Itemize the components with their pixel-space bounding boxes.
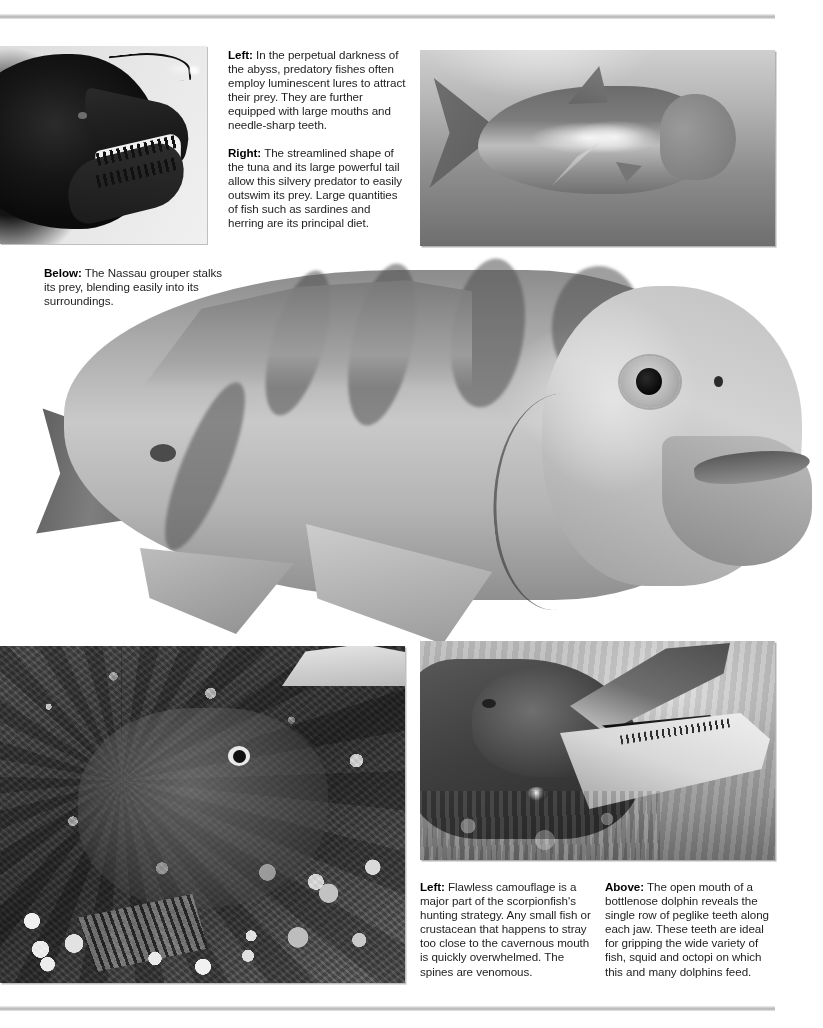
caption-lead-left: Left: — [228, 48, 253, 61]
dolphin-blowhole — [482, 699, 496, 708]
coral-cluster-bottom-left — [2, 894, 122, 983]
caption-paragraph-bottom-left: Left: Flawless camouflage is a major par… — [420, 880, 592, 979]
caption-paragraph-bottom-right: Above: The open mouth of a bottlenose do… — [605, 880, 777, 979]
grouper-dark-spot — [150, 444, 176, 462]
page-canvas: Left: In the perpetual darkness of the a… — [0, 0, 823, 1028]
anglerfish-lure-stalk — [109, 48, 192, 88]
top-divider-rule — [0, 14, 775, 19]
caption-body-left: In the perpetual darkness of the abyss, … — [228, 48, 405, 131]
caption-paragraph-left: Left: In the perpetual darkness of the a… — [228, 48, 406, 133]
photo-tuna — [420, 50, 775, 246]
dolphin-artwork — [420, 641, 775, 860]
grouper-eye — [636, 368, 662, 395]
anglerfish-eye — [78, 112, 87, 119]
anglerfish-artwork — [0, 46, 207, 244]
bottom-divider-rule — [0, 1006, 775, 1011]
caption-top-left: Left: In the perpetual darkness of the a… — [228, 48, 406, 230]
scorpionfish-body — [78, 708, 328, 908]
dolphin-water-splash — [420, 791, 660, 860]
tuna-artwork — [420, 50, 775, 246]
coral-cluster-bottom-center — [125, 931, 275, 983]
caption-bottom-right: Above: The open mouth of a bottlenose do… — [605, 880, 777, 979]
caption-bottom-left: Left: Flawless camouflage is a major par… — [420, 880, 592, 979]
photo-grouper — [22, 256, 797, 656]
anglerfish-lure-light — [186, 66, 202, 75]
grouper-dorsal-fin — [142, 278, 472, 388]
tuna-head — [660, 94, 736, 180]
photo-anglerfish — [0, 46, 207, 244]
scorpionfish-eye — [233, 750, 246, 763]
scorpionfish-artwork — [0, 646, 405, 983]
grouper-nostril — [714, 376, 723, 387]
caption-paragraph-right: Right: The streamlined shape of the tuna… — [228, 146, 406, 231]
tuna-dorsal-fin — [568, 66, 608, 104]
photo-scorpionfish — [0, 646, 405, 983]
caption-lead-right: Right: — [228, 146, 261, 159]
tuna-flank-glint — [570, 120, 660, 154]
photo-dolphin — [420, 641, 775, 860]
caption-lead-bottom-left: Left: — [420, 880, 445, 893]
caption-body-bottom-left: Flawless camouflage is a major part of t… — [420, 880, 591, 978]
caption-body-bottom-right: The open mouth of a bottlenose dolphin r… — [605, 880, 769, 978]
caption-lead-bottom-right: Above: — [605, 880, 644, 893]
